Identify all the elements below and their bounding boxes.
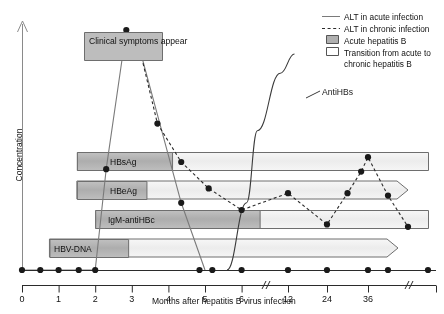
legend-label-acute-hep-b: Acute hepatitis B <box>344 36 406 46</box>
bar-label-hbv-dna: HBV-DNA <box>54 244 92 254</box>
figure-root: Concentration Months after hepatitis B v… <box>0 0 444 314</box>
bar-label-hbsag: HBsAg <box>110 157 136 167</box>
bar-label-hbeag: HBeAg <box>110 186 137 196</box>
legend-label-alt-chronic: ALT in chronic infection <box>344 24 429 34</box>
legend-label-alt-acute: ALT in acute infection <box>344 12 423 22</box>
legend-label-transition: Transition from acute to chronic hepatit… <box>344 48 442 70</box>
y-axis-label: Concentration <box>14 110 24 200</box>
bar-label-igm-antihbc: IgM-antiHBc <box>108 215 155 225</box>
x-axis-label: Months after hepatitis B virus infection <box>152 296 296 306</box>
clinical-symptoms-callout: Clinical symptoms appear <box>89 36 161 47</box>
antihbs-label: AntiHBs <box>322 87 353 97</box>
